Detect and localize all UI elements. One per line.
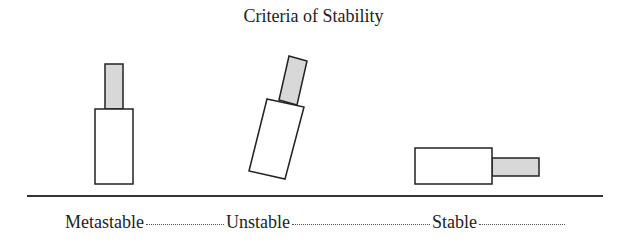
stable-object xyxy=(415,148,539,184)
metastable-body-block xyxy=(95,109,133,184)
metastable-object xyxy=(95,64,133,184)
state-labels: Metastable Unstable Stable xyxy=(65,212,567,233)
label-metastable: Metastable xyxy=(65,212,226,233)
label-text: Stable xyxy=(432,212,477,233)
dotted-leader xyxy=(146,223,224,225)
dotted-leader xyxy=(479,223,565,225)
stability-diagram xyxy=(0,0,627,244)
label-unstable: Unstable xyxy=(226,212,432,233)
dotted-leader xyxy=(292,223,430,225)
label-text: Metastable xyxy=(65,212,144,233)
metastable-top-block xyxy=(105,64,123,109)
unstable-body-block xyxy=(249,99,304,179)
unstable-top-block xyxy=(279,56,307,105)
label-text: Unstable xyxy=(226,212,290,233)
stable-body-block xyxy=(415,148,492,184)
stable-top-block xyxy=(492,158,539,176)
label-stable: Stable xyxy=(432,212,567,233)
unstable-object xyxy=(249,56,307,179)
